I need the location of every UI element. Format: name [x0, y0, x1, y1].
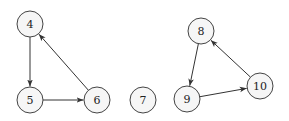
graph-canvas: 45678910 [0, 0, 289, 121]
node-6: 6 [84, 87, 110, 113]
node-label: 6 [94, 94, 101, 107]
node-label: 8 [198, 25, 205, 38]
edge-10-to-8 [211, 40, 251, 77]
node-4: 4 [17, 11, 43, 37]
node-label: 9 [184, 93, 191, 106]
node-label: 5 [27, 94, 34, 107]
node-8: 8 [188, 18, 214, 44]
node-label: 10 [253, 80, 267, 93]
node-10: 10 [247, 73, 273, 99]
node-9: 9 [174, 86, 200, 112]
edge-9-to-10 [200, 88, 247, 96]
edge-6-to-4 [39, 34, 88, 90]
node-label: 4 [27, 18, 34, 31]
node-7: 7 [130, 87, 156, 113]
node-5: 5 [17, 87, 43, 113]
edge-8-to-9 [190, 44, 199, 86]
node-label: 7 [140, 94, 147, 107]
